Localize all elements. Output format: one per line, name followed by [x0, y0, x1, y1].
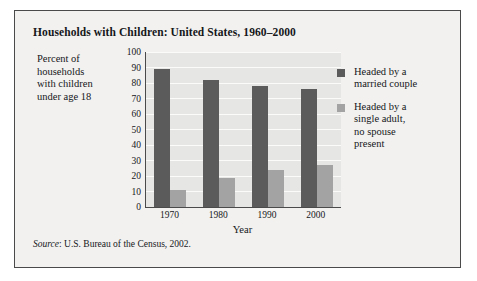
figure-card: Households with Children: United States,… — [14, 10, 461, 268]
bar-group — [301, 52, 333, 207]
bar — [301, 89, 317, 207]
y-axis-title-line: households — [37, 66, 123, 79]
y-axis-tick-label: 90 — [132, 63, 142, 73]
legend-label: Headed by a married couple — [354, 66, 452, 91]
legend-swatch-icon — [337, 69, 345, 77]
legend-label-line: married couple — [354, 78, 452, 90]
y-axis-tick-label: 80 — [132, 78, 142, 88]
y-axis-tick-label: 100 — [127, 47, 141, 57]
bar — [203, 80, 219, 207]
bar-group — [252, 52, 284, 207]
y-axis-tick-label: 0 — [136, 202, 141, 212]
x-axis-tick-label: 1980 — [209, 210, 228, 220]
bar — [268, 170, 284, 207]
legend-label-line: present — [354, 138, 452, 150]
legend-item-married: Headed by a married couple — [337, 66, 452, 91]
legend-label-line: no spouse — [354, 126, 452, 138]
y-axis-tick-label: 60 — [132, 109, 142, 119]
x-axis-title: Year — [145, 224, 340, 235]
y-axis-tick-label: 50 — [132, 125, 142, 135]
bars-layer — [146, 52, 341, 207]
source-label: Source — [33, 239, 59, 249]
legend-swatch-icon — [337, 104, 345, 112]
bar-group — [203, 52, 235, 207]
legend-item-single-adult: Headed by a single adult, no spouse pres… — [337, 101, 452, 151]
bar — [219, 178, 235, 207]
bar-group — [154, 52, 186, 207]
bar — [252, 86, 268, 207]
y-axis-title-line: with children — [37, 78, 123, 91]
x-axis-tick-labels: 1970198019902000 — [145, 210, 340, 224]
y-axis-title-line: under age 18 — [37, 91, 123, 104]
source-note: Source: U.S. Bureau of the Census, 2002. — [33, 239, 191, 249]
chart-title: Households with Children: United States,… — [33, 26, 296, 38]
y-axis-tick-label: 40 — [132, 140, 142, 150]
legend-label: Headed by a single adult, no spouse pres… — [354, 101, 452, 151]
bar — [170, 190, 186, 207]
bar — [154, 69, 170, 207]
y-axis-tick-labels: 0102030405060708090100 — [119, 52, 141, 207]
y-axis-tick-label: 70 — [132, 94, 142, 104]
chart-legend: Headed by a married couple Headed by a s… — [337, 66, 452, 160]
bar — [317, 165, 333, 207]
x-axis-tick-label: 1970 — [160, 210, 179, 220]
legend-label-line: single adult, — [354, 113, 452, 125]
x-axis-tick-label: 2000 — [306, 210, 325, 220]
y-axis-tick-label: 30 — [132, 156, 142, 166]
y-axis-tick-label: 10 — [132, 187, 142, 197]
y-axis-title-line: Percent of — [37, 53, 123, 66]
plot-area — [145, 52, 341, 208]
legend-label-line: Headed by a — [354, 66, 452, 78]
x-axis-tick-label: 1990 — [257, 210, 276, 220]
y-axis-title: Percent of households with children unde… — [37, 53, 123, 103]
legend-label-line: Headed by a — [354, 101, 452, 113]
y-axis-tick-label: 20 — [132, 171, 142, 181]
source-text: : U.S. Bureau of the Census, 2002. — [59, 239, 191, 249]
